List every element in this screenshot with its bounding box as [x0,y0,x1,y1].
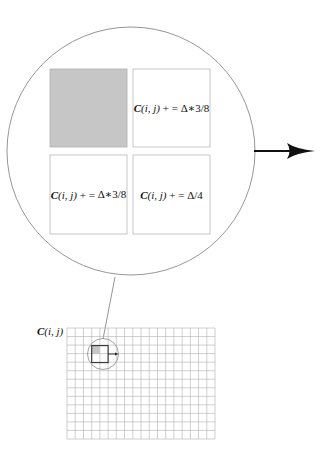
cell-bottom-left-label: C(i, j) + = Δ∗3/8 [50,155,127,234]
expr: Δ∗3/8 [181,102,210,115]
operator: + = [160,102,181,114]
connector-line [103,277,115,339]
args: (i, j) [44,325,63,337]
cell-bottom-right-label: C(i, j) + = Δ/4 [133,155,210,234]
args: (i, j) [141,102,160,114]
var-c: C [140,189,147,201]
small-arrowhead-icon [115,352,119,355]
zoom-circle [7,27,255,275]
arrow-right-icon [254,143,315,159]
small-shaded-cell [92,346,100,355]
var-c: C [134,102,141,114]
var-c: C [51,189,58,201]
args: (i, j) [148,189,167,201]
shaded-cell-top-left [50,69,127,147]
operator: + = [166,189,187,201]
args: (i, j) [58,189,77,201]
expr: Δ/4 [187,189,203,201]
expr: Δ∗3/8 [98,188,127,201]
operator: + = [77,189,98,201]
grid-label: C(i, j) [37,325,63,337]
grid [67,328,215,439]
cell-top-right-label: C(i, j) + = Δ∗3/8 [133,69,210,147]
